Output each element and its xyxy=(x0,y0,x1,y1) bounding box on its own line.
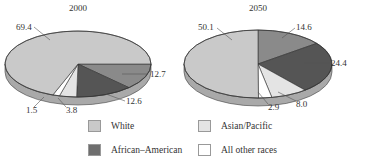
value-label: 69.4 xyxy=(16,22,32,32)
legend-swatch-all-other-races xyxy=(198,144,211,156)
value-label: 1.5 xyxy=(26,105,38,115)
legend-label: All other races xyxy=(221,145,277,155)
chart-title: 2050 xyxy=(249,3,268,13)
pie-chart-2050: 205050.114.624.48.02.9 xyxy=(184,3,347,112)
value-label: 24.4 xyxy=(331,58,347,68)
legend: White Asian/Pacific African–American All… xyxy=(0,118,369,165)
pie-charts: 200069.412.712.63.81.5205050.114.624.48.… xyxy=(0,0,369,118)
legend-label: African–American xyxy=(111,145,182,155)
value-label: 12.6 xyxy=(126,96,142,106)
legend-item-asian-pacific: Asian/Pacific xyxy=(198,120,272,132)
value-label: 3.8 xyxy=(66,105,78,115)
legend-swatch-white xyxy=(88,120,101,132)
value-label: 50.1 xyxy=(198,22,214,32)
legend-label: Asian/Pacific xyxy=(221,121,272,131)
legend-swatch-african-american xyxy=(88,144,101,156)
chart-title: 2000 xyxy=(69,3,88,13)
value-label: 12.7 xyxy=(150,69,166,79)
value-label: 14.6 xyxy=(296,22,312,32)
legend-swatch-asian-pacific xyxy=(198,120,211,132)
pie-chart-2000: 200069.412.712.63.81.5 xyxy=(5,3,166,115)
legend-item-all-other-races: All other races xyxy=(198,144,277,156)
legend-item-african-american: African–American xyxy=(88,144,182,156)
value-label: 8.0 xyxy=(296,99,308,109)
legend-label: White xyxy=(111,121,134,131)
legend-item-white: White xyxy=(88,120,134,132)
value-label: 2.9 xyxy=(268,102,280,112)
